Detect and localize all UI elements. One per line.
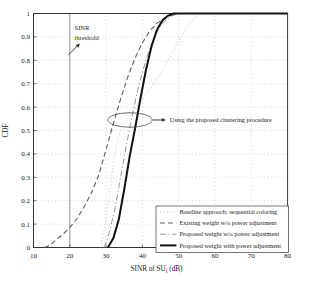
y-tick-label-0.4: 0.4 [21, 150, 30, 158]
x-tick-label-30: 30 [103, 252, 111, 260]
y-tick-label-0.5: 0.5 [21, 127, 30, 135]
x-axis-label: SINR of SUf (dB) [131, 265, 183, 274]
y-tick-label-0.1: 0.1 [21, 221, 30, 229]
x-tick-label-50: 50 [175, 252, 183, 260]
y-tick-label-0.9: 0.9 [21, 33, 30, 41]
y-tick-label-0.3: 0.3 [21, 174, 30, 182]
cluster-annotation-text: Using the proposed clustering procedure [170, 116, 272, 123]
legend-label-1: Existing weight w/o power adjustment [180, 219, 277, 226]
x-tick-label-40: 40 [139, 252, 147, 260]
x-tick-label-20: 20 [66, 252, 74, 260]
threshold-text-line2: threshold [75, 34, 100, 41]
y-tick-label-0: 0 [27, 244, 31, 252]
y-tick-label-0.2: 0.2 [21, 197, 30, 205]
x-tick-label-70: 70 [248, 252, 256, 260]
x-tick-label-80: 80 [284, 252, 292, 260]
y-tick-label-0.7: 0.7 [21, 80, 30, 88]
y-tick-label-0.8: 0.8 [21, 57, 30, 65]
cdf-chart-canvas: Using the proposed clustering procedureS… [0, 0, 313, 286]
legend-label-2: Proposed weight w/o power adjustment [180, 230, 280, 237]
x-tick-label-60: 60 [212, 252, 220, 260]
legend-label-3: Proposed weight with power adjustment [180, 242, 282, 249]
threshold-text-line1: SINR [75, 24, 90, 31]
legend-label-0: Baseline approach: sequential coloring [180, 208, 279, 215]
y-tick-label-0.6: 0.6 [21, 104, 30, 112]
x-tick-label-10: 10 [30, 252, 38, 260]
cdf-figure: Using the proposed clustering procedureS… [0, 0, 313, 286]
y-axis-label: CDF [2, 124, 10, 138]
y-tick-label-1: 1 [27, 10, 31, 18]
